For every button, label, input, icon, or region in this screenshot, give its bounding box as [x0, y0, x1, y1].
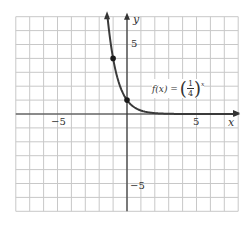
fraction-denominator: 4: [188, 89, 193, 98]
fraction-numerator: 1: [187, 79, 194, 89]
function-graph: [0, 0, 248, 230]
close-paren: ): [194, 80, 201, 98]
y-tick-label-neg5: −5: [130, 180, 145, 191]
open-paren: (: [180, 80, 187, 98]
fraction: 1 4: [187, 79, 194, 98]
y-tick-label-5: 5: [131, 38, 137, 49]
function-label: f(x) = ( 1 4 ) x: [152, 79, 204, 98]
y-axis-label: y: [133, 13, 139, 26]
x-tick-label-neg5: −5: [51, 116, 66, 127]
function-prefix: f(x) =: [152, 84, 178, 94]
axes: [16, 11, 240, 211]
x-tick-label-5: 5: [193, 116, 199, 127]
exponent: x: [201, 80, 204, 87]
x-axis-label: x: [228, 116, 234, 129]
data-point: [124, 97, 130, 103]
data-point: [110, 56, 116, 62]
